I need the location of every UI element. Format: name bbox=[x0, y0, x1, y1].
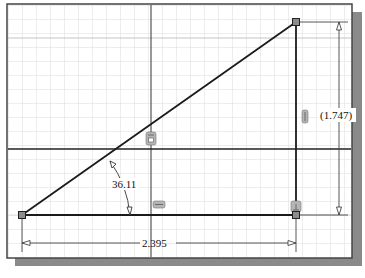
sketch-point-p2[interactable] bbox=[293, 19, 300, 26]
sketch-point-p3[interactable] bbox=[293, 212, 300, 219]
frame-shadow-bottom bbox=[15, 258, 362, 266]
horizontal-dimension-value[interactable]: 2.395 bbox=[142, 237, 167, 249]
coincident-icon[interactable] bbox=[146, 132, 156, 145]
vertical-icon[interactable] bbox=[302, 110, 308, 123]
horizontal-icon[interactable] bbox=[153, 201, 165, 208]
frame-shadow-right bbox=[352, 12, 362, 266]
vertical-dimension-value[interactable]: (1.747) bbox=[320, 109, 352, 122]
grid bbox=[8, 5, 351, 257]
angle-dimension-value[interactable]: 36.11 bbox=[112, 178, 136, 190]
perpendicular-icon[interactable] bbox=[291, 201, 301, 212]
sketch-point-p1[interactable] bbox=[19, 212, 26, 219]
sketch-canvas[interactable]: 2.395 (1.747) 36.11 bbox=[0, 0, 365, 278]
